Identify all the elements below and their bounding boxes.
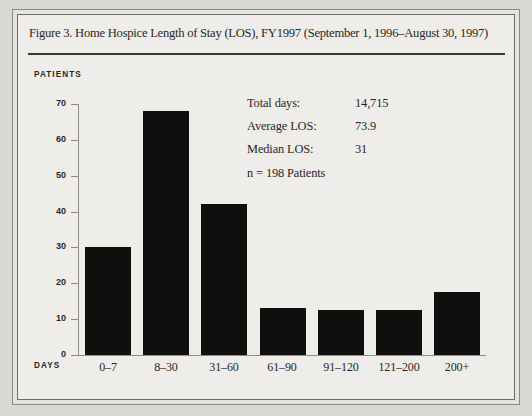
y-axis-tick-label-text: 20 (40, 277, 66, 287)
x-axis-category-label: 61–90 (253, 360, 311, 375)
chart-bar (376, 310, 422, 355)
stat-row: Average LOS:73.9 (247, 119, 388, 142)
y-axis-tick-label-text: 30 (40, 241, 66, 251)
y-axis-tick (71, 283, 79, 284)
x-axis-category-label: 31–60 (195, 360, 253, 375)
x-axis-category-label: 121–200 (370, 360, 428, 375)
statistics-block: Total days:14,715 Average LOS:73.9 Media… (247, 96, 388, 181)
bar-chart-plot-area: 010203040506070 (0, 0, 532, 416)
chart-bar (434, 292, 480, 355)
stat-label: Median LOS: (247, 142, 355, 157)
y-axis-tick-label: 20 (38, 277, 66, 289)
x-axis-category-label: 0–7 (79, 360, 137, 375)
y-axis-tick-label: 30 (38, 241, 66, 253)
y-axis-tick (71, 212, 79, 213)
y-axis-tick (71, 104, 79, 105)
chart-bar (143, 111, 189, 355)
y-axis-tick-label: 60 (38, 134, 66, 146)
y-axis-tick-label: 50 (38, 170, 66, 182)
x-axis-category-label: 91–120 (312, 360, 370, 375)
stat-value: 73.9 (355, 119, 376, 134)
x-axis-line (78, 355, 486, 356)
x-axis-category-label: 8–30 (137, 360, 195, 375)
y-axis-tick-label-text: 10 (40, 313, 66, 323)
y-axis-tick (71, 176, 79, 177)
y-axis-tick-label-text: 50 (40, 170, 66, 180)
chart-bar (318, 310, 364, 355)
stat-row: Median LOS:31 (247, 142, 388, 165)
y-axis-tick-label: 40 (38, 206, 66, 218)
x-axis-category-label: 200+ (428, 360, 486, 375)
y-axis-tick-label: 0 (38, 349, 66, 361)
chart-bar (85, 247, 131, 355)
y-axis-tick-label-text: 0 (40, 349, 66, 359)
chart-bar (201, 204, 247, 355)
y-axis-tick-label: 70 (38, 98, 66, 110)
y-axis-tick-label-text: 40 (40, 206, 66, 216)
figure-root: Figure 3. Home Hospice Length of Stay (L… (0, 0, 532, 416)
sample-size-note: n = 198 Patients (247, 166, 388, 181)
stat-value: 14,715 (355, 96, 388, 111)
stat-value: 31 (355, 142, 367, 157)
y-axis-tick (71, 319, 79, 320)
stat-label: Average LOS: (247, 119, 355, 134)
chart-bar (260, 308, 306, 355)
y-axis-tick (71, 355, 79, 356)
y-axis-tick-label: 10 (38, 313, 66, 325)
y-axis-tick-label-text: 70 (40, 98, 66, 108)
stat-label: Total days: (247, 96, 355, 111)
stat-row: Total days:14,715 (247, 96, 388, 119)
y-axis-tick (71, 247, 79, 248)
y-axis-tick (71, 140, 79, 141)
y-axis-tick-label-text: 60 (40, 134, 66, 144)
